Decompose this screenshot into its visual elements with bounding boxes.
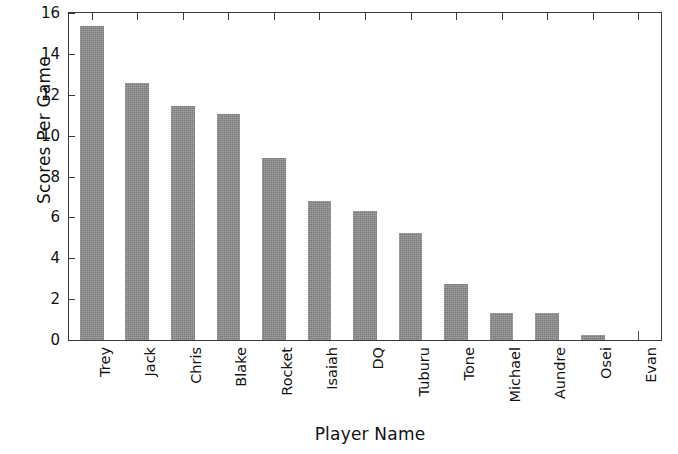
x-axis-tick-label: DQ [370,347,386,370]
bar-michael[interactable] [490,313,514,340]
x-axis-tick-label: Isaiah [324,347,340,390]
bar-slot [308,13,332,340]
y-axis-tick [69,136,75,137]
bar-chris[interactable] [171,106,195,340]
y-axis-tick [69,54,75,55]
bar-slot [262,13,286,340]
x-axis-tick-top [228,13,229,20]
x-axis-tick-label: Jack [142,347,158,377]
x-axis-tick-top [274,13,275,20]
plot-area: 0246810121416 [68,12,662,341]
bar-slot [581,13,605,340]
x-axis-tick-top [593,13,594,20]
bars-container [69,13,661,340]
x-axis-tick-label: Evan [643,347,659,383]
x-axis-tick-label: Aundre [552,347,568,399]
y-axis-tick-label: 4 [50,249,60,267]
y-axis-tick [69,258,75,259]
y-axis-tick [69,217,75,218]
bar-isaiah[interactable] [308,201,332,340]
bar-slot [125,13,149,340]
bar-slot [490,13,514,340]
x-axis-tick-label: Blake [233,347,249,387]
x-axis-tick-label: Trey [97,347,113,377]
y-axis-tick [69,340,75,341]
x-axis-tick-top [92,13,93,20]
bar-jack[interactable] [125,83,149,341]
x-axis-title: Player Name [70,424,670,444]
x-axis-tick-top [456,13,457,20]
x-axis-tick-top [137,13,138,20]
x-axis-tick-label: Tuburu [416,347,432,396]
x-axis-tick-label: Chris [188,347,204,384]
x-axis-tick-top [319,13,320,20]
y-axis-tick-label: 6 [50,208,60,226]
bar-slot [444,13,468,340]
bar-trey[interactable] [80,26,104,340]
bar-evan[interactable] [638,331,640,340]
bar-slot [217,13,241,340]
x-axis-tick-top [365,13,366,20]
bar-slot [399,13,423,340]
y-axis-tick-label: 16 [41,4,60,22]
x-axis-tick-top [638,13,639,20]
y-axis-tick-label: 10 [41,127,60,145]
bar-rocket[interactable] [262,158,286,340]
y-axis-tick-label: 14 [41,45,60,63]
y-axis-tick-label: 0 [50,331,60,349]
bar-slot [626,13,650,340]
x-axis-tick-label: Michael [507,347,523,403]
y-axis-tick-label: 12 [41,86,60,104]
x-axis-tick-top [502,13,503,20]
bar-aundre[interactable] [535,313,559,340]
x-axis-tick-label: Rocket [279,347,295,396]
x-axis-tick-label: Osei [598,347,614,379]
x-axis-tick-label: Tone [461,347,477,380]
bar-tuburu[interactable] [399,233,423,340]
bar-slot [171,13,195,340]
bar-chart-figure: Scores Per Game 0246810121416 TreyJackCh… [0,0,678,454]
y-axis-tick [69,177,75,178]
bar-osei[interactable] [581,335,605,340]
y-axis-tick [69,299,75,300]
bar-slot [80,13,104,340]
x-axis-tick-top [411,13,412,20]
x-axis-tick-top [183,13,184,20]
bar-slot [535,13,559,340]
bar-slot [353,13,377,340]
bar-blake[interactable] [217,114,241,340]
y-axis-tick-label: 8 [50,168,60,186]
y-axis-tick-label: 2 [50,290,60,308]
bar-tone[interactable] [444,284,468,340]
x-axis-tick-top [547,13,548,20]
y-axis-tick [69,13,75,14]
y-axis-tick [69,95,75,96]
bar-dq[interactable] [353,211,377,340]
